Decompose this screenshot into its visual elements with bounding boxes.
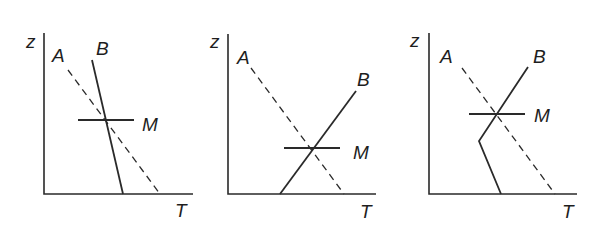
z-axis-label: z (409, 30, 420, 51)
curve-b (92, 60, 123, 194)
panel-2: z A B M T (209, 31, 376, 222)
label-a: A (51, 45, 65, 66)
z-axis-label: z (209, 31, 220, 52)
t-axis-label: T (360, 201, 373, 222)
t-axis-label: T (562, 201, 575, 222)
curve-a-dashed (251, 68, 344, 194)
three-panel-diagram: z A B M T z A B M T z A B M T (0, 0, 590, 231)
t-axis-label: T (175, 200, 188, 221)
label-a: A (236, 47, 250, 68)
curve-b (479, 67, 528, 194)
label-b: B (533, 46, 546, 67)
axes (228, 34, 376, 194)
label-b: B (357, 69, 370, 90)
axes (44, 33, 193, 194)
panel-1: z A B M T (25, 31, 193, 221)
z-axis-label: z (25, 31, 36, 52)
label-m: M (534, 105, 550, 126)
label-b: B (96, 38, 109, 59)
label-a: A (439, 46, 453, 67)
curve-a-dashed (462, 68, 555, 194)
curve-b (280, 91, 356, 194)
label-m: M (142, 114, 158, 135)
label-m: M (353, 142, 369, 163)
panel-3: z A B M T (409, 30, 577, 222)
